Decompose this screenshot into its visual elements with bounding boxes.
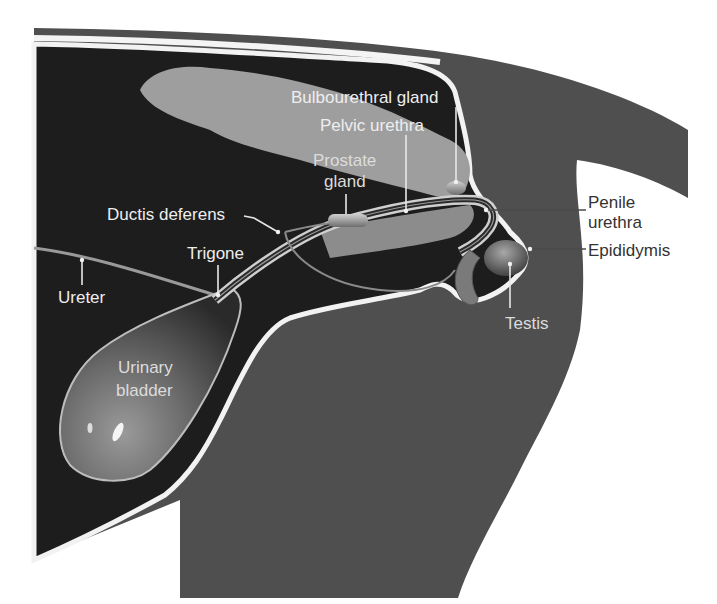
label-testis: Testis [505, 314, 548, 333]
label-urinary-line2: bladder [116, 381, 173, 400]
bladder-highlight [88, 423, 93, 433]
label-epididymis: Epididymis [588, 241, 670, 260]
label-trigone: Trigone [187, 244, 244, 263]
label-prostate-line2: gland [324, 172, 366, 191]
label-ureter: Ureter [58, 288, 106, 307]
label-prostate-line1: Prostate [313, 151, 376, 170]
label-bulbourethral-gland: Bulbourethral gland [291, 88, 438, 107]
urogenital-diagram: Bulbourethral gland Pelvic urethra Prost… [0, 0, 717, 604]
label-penile-line2: urethra [588, 213, 642, 232]
label-penile-line1: Penile [588, 193, 635, 212]
label-urinary-line1: Urinary [118, 358, 173, 377]
prostate-gland [328, 214, 368, 227]
label-pelvic-urethra: Pelvic urethra [320, 116, 424, 135]
testis [484, 240, 528, 276]
label-ductus-deferens: Ductis deferens [107, 205, 225, 224]
